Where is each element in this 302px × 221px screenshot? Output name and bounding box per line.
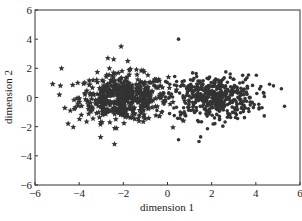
- dot-marker: [162, 102, 166, 106]
- star-marker: [58, 65, 64, 71]
- dot-marker: [152, 84, 156, 88]
- dot-marker: [210, 113, 214, 117]
- y-tick-label: 6: [27, 4, 33, 16]
- dot-marker: [247, 110, 251, 114]
- dot-marker: [164, 95, 168, 99]
- dot-marker: [206, 127, 210, 131]
- dot-marker: [228, 72, 232, 76]
- dot-marker: [173, 75, 177, 79]
- dot-marker: [162, 91, 166, 95]
- dot-marker: [218, 80, 222, 84]
- star-marker: [112, 125, 118, 131]
- dot-marker: [224, 70, 228, 74]
- dot-marker: [186, 92, 190, 96]
- dot-marker: [209, 90, 213, 94]
- dot-marker: [215, 98, 219, 102]
- star-marker: [90, 115, 96, 121]
- dot-marker: [238, 81, 242, 85]
- dot-marker: [168, 112, 172, 116]
- dot-marker: [223, 85, 227, 89]
- dot-marker: [245, 93, 249, 97]
- dot-marker: [191, 105, 195, 109]
- dot-marker: [217, 101, 221, 105]
- dot-marker: [240, 88, 244, 92]
- dot-marker: [179, 84, 183, 88]
- star-marker: [65, 121, 71, 127]
- star-marker: [56, 92, 62, 98]
- dot-marker: [235, 102, 239, 106]
- dot-marker: [174, 89, 178, 93]
- dot-marker: [183, 112, 187, 116]
- dot-marker: [230, 105, 234, 109]
- star-marker: [111, 141, 117, 147]
- dot-marker: [228, 96, 232, 100]
- dot-marker: [239, 111, 243, 115]
- dot-marker: [164, 80, 168, 84]
- dot-marker: [182, 96, 186, 100]
- star-marker: [70, 124, 76, 130]
- dot-marker: [234, 85, 238, 89]
- dot-marker: [262, 91, 266, 95]
- dot-marker: [167, 91, 171, 95]
- star-marker: [145, 72, 151, 78]
- dot-marker: [262, 114, 266, 118]
- dot-marker: [171, 95, 175, 99]
- dot-marker: [231, 111, 235, 115]
- dot-marker: [205, 104, 209, 108]
- dot-marker: [197, 140, 201, 144]
- dot-marker: [233, 108, 237, 112]
- dot-marker: [280, 87, 284, 91]
- dot-marker: [227, 113, 231, 117]
- dot-marker: [244, 78, 248, 82]
- star-marker: [125, 58, 131, 64]
- x-axis-label: dimension 1: [140, 201, 194, 213]
- dot-marker: [175, 80, 179, 84]
- dot-marker: [201, 104, 205, 108]
- x-tick-label: −4: [73, 187, 85, 199]
- dot-marker: [205, 101, 209, 105]
- dot-marker: [187, 105, 191, 109]
- dot-marker: [195, 106, 199, 110]
- dot-marker: [259, 85, 263, 89]
- y-axis-label: dimension 2: [2, 70, 14, 124]
- dot-marker: [255, 92, 259, 96]
- dot-marker: [243, 116, 247, 120]
- dot-marker: [210, 102, 214, 106]
- star-marker: [107, 119, 113, 125]
- scatter-chart: −6−4−20246 −6−4−20246 dimension 1 dimens…: [0, 0, 302, 221]
- dot-marker: [272, 84, 276, 88]
- dot-marker: [213, 122, 217, 126]
- dot-marker: [207, 85, 211, 89]
- dot-marker: [211, 106, 215, 110]
- dot-marker: [196, 91, 200, 95]
- dot-marker: [212, 79, 216, 83]
- dot-marker: [207, 95, 211, 99]
- dot-marker: [238, 93, 242, 97]
- y-tick-label: 2: [27, 62, 33, 74]
- dot-marker: [241, 74, 245, 78]
- dot-marker: [198, 86, 202, 90]
- star-marker: [50, 81, 56, 87]
- dot-marker: [187, 98, 191, 102]
- dot-marker: [177, 37, 181, 41]
- dot-marker: [219, 105, 223, 109]
- dot-marker: [230, 93, 234, 97]
- dot-marker: [218, 118, 222, 122]
- dot-marker: [242, 103, 246, 107]
- dot-marker: [268, 83, 272, 87]
- dot-marker: [223, 120, 227, 124]
- dot-marker: [160, 110, 164, 114]
- dot-marker: [255, 74, 259, 78]
- star-marker: [121, 120, 127, 126]
- dot-marker: [223, 104, 227, 108]
- dot-marker: [201, 79, 205, 83]
- dot-marker: [215, 92, 219, 96]
- star-marker: [57, 82, 63, 88]
- star-marker: [94, 69, 100, 75]
- dot-marker: [241, 81, 245, 85]
- dot-marker: [248, 96, 252, 100]
- star-marker: [70, 82, 76, 88]
- star-marker: [118, 43, 124, 49]
- dot-marker: [245, 84, 249, 88]
- star-marker: [98, 134, 104, 140]
